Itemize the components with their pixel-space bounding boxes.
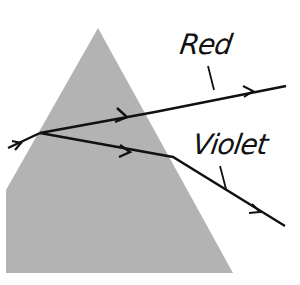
- red-label: Red: [178, 28, 234, 61]
- prism-diagram: Red Violet: [0, 0, 300, 285]
- red-leader-line: [208, 66, 214, 90]
- violet-label: Violet: [191, 128, 270, 161]
